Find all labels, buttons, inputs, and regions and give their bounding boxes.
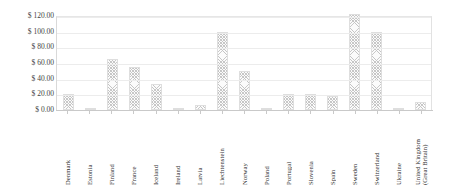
tick-mark	[111, 111, 112, 114]
x-axis-tick-label: Liechtenstein	[218, 115, 225, 185]
gridline	[57, 95, 431, 96]
x-axis: DenmarkEstoniaFinlandFranceIcelandIrelan…	[56, 111, 432, 185]
x-axis-tick: Switzerland	[366, 111, 388, 185]
x-axis-tick-label: France	[130, 115, 137, 185]
gridline	[57, 80, 431, 81]
tick-mark	[67, 111, 68, 114]
x-axis-tick: Slovenia	[299, 111, 321, 185]
bar	[239, 71, 250, 110]
y-axis: $ 120.00$ 100.00$ 80.00$ 60.00$ 40.00$ 2…	[8, 0, 54, 185]
tick-mark	[377, 111, 378, 114]
x-axis-tick-label: Poland	[263, 115, 270, 185]
x-axis-tick: Spain	[322, 111, 344, 185]
x-axis-tick-label: Iceland	[152, 115, 159, 185]
y-axis-tick-label: $ 120.00	[8, 12, 54, 20]
x-axis-tick: Portugal	[277, 111, 299, 185]
bar	[107, 59, 118, 110]
y-axis-tick-label: $ 40.00	[8, 75, 54, 83]
x-axis-tick: Liechtenstein	[211, 111, 233, 185]
tick-mark	[244, 111, 245, 114]
y-axis-tick-label: $ 60.00	[8, 59, 54, 67]
x-axis-tick: United Kingdom (Great Britain)	[410, 111, 432, 185]
x-axis-tick: Sweden	[344, 111, 366, 185]
gridline	[57, 17, 431, 18]
bar	[63, 94, 74, 110]
x-axis-tick-label: Latvia	[196, 115, 203, 185]
bar	[327, 96, 338, 110]
plot-area	[56, 16, 432, 110]
bar	[217, 32, 228, 110]
bar	[305, 94, 316, 110]
x-axis-tick-label: Norway	[241, 115, 248, 185]
x-axis-tick-label: Spain	[329, 115, 336, 185]
gridline	[57, 48, 431, 49]
tick-mark	[399, 111, 400, 114]
x-axis-tick-label: Ireland	[174, 115, 181, 185]
x-axis-tick: Ukraine	[388, 111, 410, 185]
x-axis-tick-label: Slovenia	[307, 115, 314, 185]
bar-chart: $ 120.00$ 100.00$ 80.00$ 60.00$ 40.00$ 2…	[0, 0, 450, 185]
tick-mark	[222, 111, 223, 114]
x-axis-tick-label: Portugal	[285, 115, 292, 185]
tick-mark	[355, 111, 356, 114]
tick-mark	[178, 111, 179, 114]
x-axis-tick: Denmark	[56, 111, 78, 185]
x-axis-tick-label: Finland	[108, 115, 115, 185]
x-axis-tick: Iceland	[145, 111, 167, 185]
tick-mark	[133, 111, 134, 114]
gridline	[57, 64, 431, 65]
bar	[283, 94, 294, 110]
tick-mark	[156, 111, 157, 114]
tick-mark	[200, 111, 201, 114]
x-axis-tick: France	[122, 111, 144, 185]
x-axis-tick-label: Denmark	[64, 115, 71, 185]
x-axis-tick: Ireland	[167, 111, 189, 185]
gridline	[57, 33, 431, 34]
x-axis-tick-label: Ukraine	[395, 115, 402, 185]
bar	[371, 32, 382, 110]
bar	[151, 84, 162, 110]
x-axis-tick: Norway	[233, 111, 255, 185]
x-axis-tick: Latvia	[189, 111, 211, 185]
tick-mark	[310, 111, 311, 114]
x-axis-tick: Poland	[255, 111, 277, 185]
x-axis-tick-label: Estonia	[86, 115, 93, 185]
y-axis-tick-label: $ 80.00	[8, 43, 54, 51]
y-axis-tick-label: $ 20.00	[8, 90, 54, 98]
x-axis-tick: Estonia	[78, 111, 100, 185]
tick-mark	[89, 111, 90, 114]
y-axis-tick-label: $ 0.00	[8, 106, 54, 114]
x-axis-tick-label: Sweden	[351, 115, 358, 185]
y-axis-tick-label: $ 100.00	[8, 28, 54, 36]
tick-mark	[421, 111, 422, 114]
tick-mark	[288, 111, 289, 114]
bar	[415, 102, 426, 110]
x-axis-tick-label: United Kingdom (Great Britain)	[414, 115, 428, 185]
bar	[129, 67, 140, 110]
x-axis-tick: Finland	[100, 111, 122, 185]
tick-mark	[333, 111, 334, 114]
tick-mark	[266, 111, 267, 114]
x-axis-tick-label: Switzerland	[373, 115, 380, 185]
